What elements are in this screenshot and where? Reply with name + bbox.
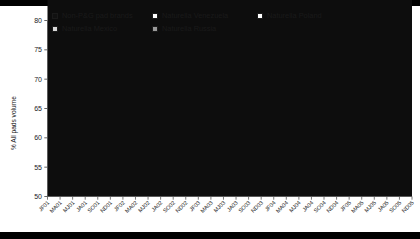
x-tick-label: MJ03	[212, 199, 226, 213]
x-tick-label: ND02	[174, 199, 188, 213]
x-tick-label: MJ04	[288, 199, 302, 213]
y-tick-label: 75	[34, 46, 42, 53]
y-tick-label: 60	[34, 134, 42, 141]
x-tick-label: MJ05	[363, 199, 377, 213]
x-tick-label: SO05	[388, 199, 402, 213]
x-tick-label: MA02	[124, 199, 139, 214]
x-tick-label: MJ02	[137, 199, 151, 213]
area-series	[48, 0, 413, 197]
x-tick-label: ND01	[99, 199, 113, 213]
x-tick-label: MA04	[275, 199, 290, 214]
x-tick-label: SO01	[86, 199, 100, 213]
x-tick-label: SO04	[313, 199, 327, 213]
y-tick-label: 50	[34, 193, 42, 200]
y-tick-label: 55	[34, 164, 42, 171]
x-tick-label: MA03	[199, 199, 214, 214]
x-tick-label: MJ01	[62, 199, 76, 213]
x-tick-label: SO02	[162, 199, 176, 213]
y-tick-label: 65	[34, 105, 42, 112]
y-tick-label: 70	[34, 76, 42, 83]
x-tick-label: MA01	[48, 199, 63, 214]
x-tick-label: ND05	[401, 199, 415, 213]
x-tick-label: ND03	[250, 199, 264, 213]
y-tick-label: 80	[34, 17, 42, 24]
chart-container: 50556065707580JF01MA01MJ01JA01SO01ND01JF…	[0, 0, 420, 239]
y-axis-title: % All pads volume	[10, 96, 17, 150]
x-tick-label: SO03	[237, 199, 251, 213]
x-tick-label: MA05	[350, 199, 365, 214]
stacked-area-chart: 50556065707580JF01MA01MJ01JA01SO01ND01JF…	[0, 0, 420, 239]
x-tick-label: ND04	[325, 199, 339, 213]
